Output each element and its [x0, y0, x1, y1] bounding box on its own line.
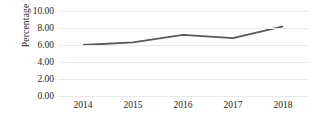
y-tick-label: 0.00 [20, 91, 54, 101]
x-tick-label: 2015 [124, 100, 143, 110]
x-tick-label: 2018 [274, 100, 293, 110]
x-axis-tick-labels: 20142015201620172018 [58, 100, 308, 120]
x-tick-label: 2014 [74, 100, 93, 110]
line-chart: Percentage Rate 0.002.004.006.008.0010.0… [0, 0, 313, 125]
x-tick-label: 2017 [224, 100, 243, 110]
gridline-6.00 [58, 45, 308, 46]
plot-area [58, 11, 308, 96]
series-line-percentage-rate [58, 11, 308, 96]
gridline-0.00 [58, 96, 308, 97]
y-tick-label: 2.00 [20, 74, 54, 84]
y-tick-label: 4.00 [20, 57, 54, 67]
gridline-8.00 [58, 28, 308, 29]
gridline-10.00 [58, 11, 308, 12]
y-axis-tick-labels: 0.002.004.006.008.0010.00 [20, 0, 54, 125]
gridline-4.00 [58, 62, 308, 63]
gridline-2.00 [58, 79, 308, 80]
x-tick-label: 2016 [174, 100, 193, 110]
y-tick-label: 8.00 [20, 23, 54, 33]
y-tick-label: 6.00 [20, 40, 54, 50]
y-tick-label: 10.00 [20, 6, 54, 16]
